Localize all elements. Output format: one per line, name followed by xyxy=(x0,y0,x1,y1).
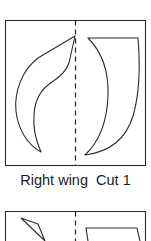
pattern-label-right-wing: Right wing Cut 1 xyxy=(0,168,151,192)
pattern-sheet: Right wing Cut 1 xyxy=(0,0,151,241)
pattern-drawing xyxy=(0,0,151,241)
